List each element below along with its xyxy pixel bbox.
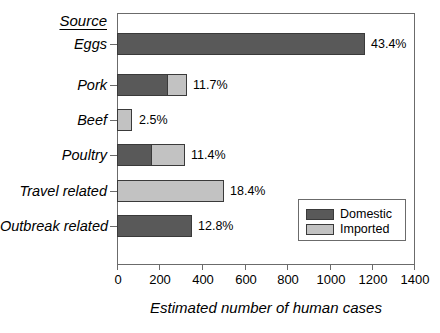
x-tick-label-0: 0 <box>114 272 121 287</box>
x-tick-0 <box>117 265 118 270</box>
legend-label-domestic: Domestic <box>340 207 392 221</box>
y-axis-header: Source <box>0 12 107 29</box>
bar-segment-travel-related-imported <box>117 180 224 202</box>
x-tick-label-400: 400 <box>192 272 214 287</box>
x-tick-1400 <box>414 265 415 270</box>
category-label-pork: Pork <box>0 78 107 92</box>
legend-label-imported: Imported <box>340 222 389 236</box>
bar-segment-eggs-domestic <box>117 33 365 55</box>
x-tick-label-1400: 1400 <box>401 272 430 287</box>
bar-label-pork: 11.7% <box>193 74 228 96</box>
category-label-eggs: Eggs <box>0 37 107 51</box>
bar-label-poultry: 11.4% <box>191 144 226 166</box>
bar-segment-poultry-domestic <box>117 144 152 166</box>
x-tick-1200 <box>372 265 373 270</box>
x-tick-label-600: 600 <box>235 272 257 287</box>
bar-label-outbreak-related: 12.8% <box>198 215 233 237</box>
legend-swatch-domestic <box>306 209 334 220</box>
legend-swatch-imported <box>306 224 334 235</box>
x-tick-800 <box>287 265 288 270</box>
bar-label-beef: 2.5% <box>139 109 168 131</box>
stacked-bar-chart: Source Eggs Pork Beef Poultry Travel rel… <box>0 0 440 333</box>
y-tick-beef <box>110 120 117 121</box>
bar-segment-pork-imported <box>167 74 187 96</box>
category-label-outbreak-related: Outbreak related <box>0 219 107 233</box>
bar-segment-pork-domestic <box>117 74 168 96</box>
bar-segment-beef-imported <box>117 109 132 131</box>
x-tick-600 <box>245 265 246 270</box>
x-tick-label-1000: 1000 <box>317 272 346 287</box>
x-tick-label-200: 200 <box>149 272 171 287</box>
x-axis-title: Estimated number of human cases <box>117 299 415 316</box>
category-label-beef: Beef <box>0 113 107 127</box>
category-label-travel-related: Travel related <box>0 184 107 198</box>
x-tick-1000 <box>330 265 331 270</box>
legend: Domestic Imported <box>298 199 406 241</box>
bar-segment-outbreak-related-domestic <box>117 215 192 237</box>
bar-label-travel-related: 18.4% <box>230 180 265 202</box>
x-tick-label-1200: 1200 <box>359 272 388 287</box>
x-tick-label-800: 800 <box>277 272 299 287</box>
category-label-poultry: Poultry <box>0 148 107 162</box>
y-tick-eggs <box>110 44 117 45</box>
bar-segment-poultry-imported <box>151 144 185 166</box>
y-tick-pork <box>110 85 117 86</box>
x-tick-400 <box>202 265 203 270</box>
x-tick-200 <box>159 265 160 270</box>
y-tick-outbreak-related <box>110 226 117 227</box>
y-tick-poultry <box>110 155 117 156</box>
y-tick-travel-related <box>110 191 117 192</box>
bar-label-eggs: 43.4% <box>371 33 406 55</box>
